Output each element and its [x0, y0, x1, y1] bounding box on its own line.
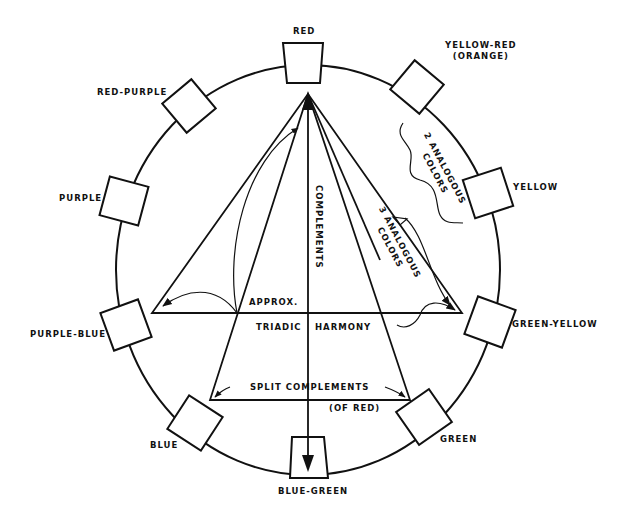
swatch-yellow [463, 168, 513, 218]
swatch-red-purple [162, 79, 216, 133]
split-curve-left [215, 387, 230, 397]
harmony-curve-right [397, 303, 455, 327]
label-yellow-red-sub: (ORANGE) [445, 51, 517, 62]
swatch-purple [100, 177, 149, 226]
label-red: RED [293, 26, 315, 37]
of-red-label: (OF RED) [329, 403, 380, 414]
label-yellow-red-name: YELLOW-RED [445, 40, 517, 51]
split-complements-label: SPLIT COMPLEMENTS [250, 382, 369, 393]
swatch-purple-blue [100, 299, 151, 350]
swatch-red [283, 43, 323, 83]
harmony-label: HARMONY [315, 322, 371, 333]
triadic-label: TRIADIC [256, 322, 302, 333]
swatch-green-yellow [464, 296, 515, 347]
label-purple-blue: PURPLE-BLUE [30, 329, 106, 340]
approx-curve-left [163, 292, 237, 313]
label-blue-green: BLUE-GREEN [278, 486, 348, 497]
label-green: GREEN [440, 434, 477, 445]
swatch-yellow-red [390, 60, 444, 114]
label-green-yellow: GREEN-YELLOW [512, 319, 598, 330]
split-curve-right [385, 387, 405, 397]
label-red-purple: RED-PURPLE [97, 87, 167, 98]
triadic-triangle [152, 94, 462, 313]
label-blue: BLUE [150, 440, 178, 451]
label-purple: PURPLE [59, 193, 102, 204]
color-wheel-diagram [0, 0, 619, 520]
split-complements-triangle [210, 94, 410, 400]
complements-label: COMPLEMENTS [313, 185, 324, 269]
approx-label: APPROX. [249, 297, 298, 308]
label-yellow: YELLOW [513, 182, 558, 193]
label-yellow-red: YELLOW-RED (ORANGE) [445, 40, 517, 62]
